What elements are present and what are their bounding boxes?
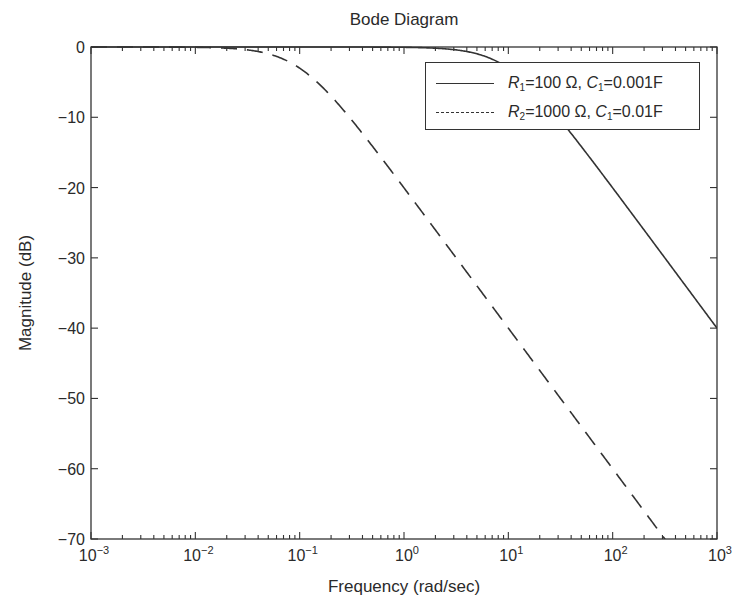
solid-line-swatch-icon — [436, 83, 494, 84]
dashed-line-swatch-icon — [436, 112, 494, 113]
legend-item-series-1: R1=100 Ω, C1=0.001F — [426, 68, 699, 98]
x-tick-label: 102 — [604, 544, 628, 564]
x-tick-label: 10−2 — [183, 544, 213, 564]
x-axis-label: Frequency (rad/sec) — [91, 577, 717, 597]
y-tick-label: −30 — [58, 250, 85, 267]
x-tick-label: 100 — [395, 544, 419, 564]
y-tick-label: −70 — [58, 531, 85, 548]
y-axis-label: Magnitude (dB) — [16, 235, 36, 351]
chart-title: Bode Diagram — [0, 10, 747, 30]
y-tick-label: −20 — [58, 180, 85, 197]
x-tick-label: 103 — [708, 544, 732, 564]
y-tick-label: −10 — [58, 109, 85, 126]
y-tick-label: −50 — [58, 390, 85, 407]
legend-label-series-1: R1=100 Ω, C1=0.001F — [508, 74, 663, 93]
legend-item-series-2: R2=1000 Ω, C1=0.01F — [426, 97, 699, 127]
x-tick-label: 101 — [499, 544, 523, 564]
legend-label-series-2: R2=1000 Ω, C1=0.01F — [508, 103, 663, 122]
y-tick-label: 0 — [76, 39, 85, 56]
curves — [91, 47, 717, 609]
x-tick-label: 10−1 — [287, 544, 317, 564]
legend: R1=100 Ω, C1=0.001F R2=1000 Ω, C1=0.01F — [425, 62, 700, 130]
y-tick-label: −60 — [58, 461, 85, 478]
curve-series-2 — [91, 47, 717, 609]
x-tick-label: 10−3 — [79, 544, 109, 564]
y-tick-label: −40 — [58, 320, 85, 337]
